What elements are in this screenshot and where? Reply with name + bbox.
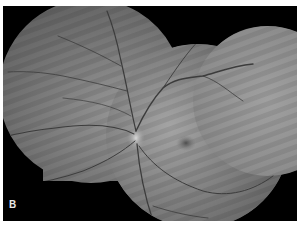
macula (176, 135, 196, 151)
fundus-figure: B (0, 0, 297, 231)
panel-label: B (9, 200, 16, 210)
fundus-image (3, 6, 297, 221)
fundus-montage (3, 6, 297, 221)
